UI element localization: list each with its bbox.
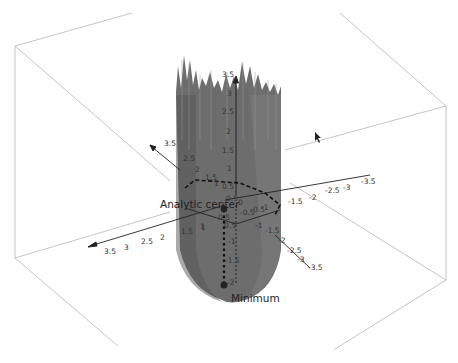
svg-text:1.5: 1.5 xyxy=(181,227,193,236)
svg-text:-2: -2 xyxy=(227,278,235,287)
svg-text:3.5: 3.5 xyxy=(164,139,176,148)
svg-text:2.5: 2.5 xyxy=(222,107,234,116)
svg-text:0: 0 xyxy=(238,198,243,207)
svg-text:0.5: 0.5 xyxy=(226,194,238,203)
svg-text:0.5: 0.5 xyxy=(222,182,234,191)
svg-text:-3: -3 xyxy=(297,255,305,264)
svg-text:2: 2 xyxy=(195,165,200,174)
svg-text:1: 1 xyxy=(214,179,219,188)
svg-text:2: 2 xyxy=(160,233,165,242)
svg-text:2.5: 2.5 xyxy=(141,237,153,246)
svg-text:-1: -1 xyxy=(261,203,269,212)
svg-text:-3.5: -3.5 xyxy=(308,263,323,272)
svg-text:1.5: 1.5 xyxy=(222,146,234,155)
svg-text:3: 3 xyxy=(227,89,232,98)
svg-text:3: 3 xyxy=(124,243,129,252)
svg-text:1: 1 xyxy=(227,164,232,173)
svg-text:-2: -2 xyxy=(309,193,317,202)
svg-text:-1: -1 xyxy=(228,237,236,246)
svg-text:-1.5: -1.5 xyxy=(265,226,280,235)
svg-text:-1: -1 xyxy=(255,221,263,230)
svg-text:-3: -3 xyxy=(343,183,351,192)
svg-text:2.5: 2.5 xyxy=(183,154,195,163)
3d-plot-canvas[interactable]: Analytic center Minimum 3.5 3 2.5 2 1.5 … xyxy=(0,0,458,363)
svg-text:-3.5: -3.5 xyxy=(361,177,376,186)
svg-text:-2: -2 xyxy=(278,236,286,245)
minimum-label: Minimum xyxy=(231,292,280,304)
svg-text:-2.5: -2.5 xyxy=(325,186,340,195)
svg-text:1: 1 xyxy=(201,223,206,232)
svg-text:-1.5: -1.5 xyxy=(288,197,303,206)
svg-text:-2.5: -2.5 xyxy=(287,246,302,255)
svg-text:3.5: 3.5 xyxy=(104,247,116,256)
svg-text:0.5: 0.5 xyxy=(224,221,236,230)
svg-text:2: 2 xyxy=(226,127,231,136)
svg-text:3.5: 3.5 xyxy=(222,70,234,79)
svg-text:-1.5: -1.5 xyxy=(225,256,240,265)
